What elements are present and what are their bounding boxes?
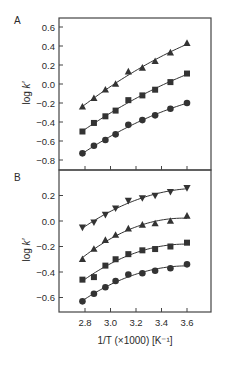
- y-tick-label: 0.0: [42, 216, 55, 227]
- x-tick-label: 3.2: [129, 317, 142, 328]
- series-circle: [79, 261, 190, 305]
- panel-b: B0.20.0−0.2−0.4−0.6log k′2.83.03.23.43.6: [14, 170, 211, 328]
- series-inverted-triangle: [79, 185, 191, 231]
- series-circle: [79, 100, 190, 157]
- y-tick-label: −0.2: [36, 241, 55, 252]
- y-tick-label: 0.2: [42, 60, 55, 71]
- y-tick-label: 0.2: [42, 190, 55, 201]
- plot-frame: [59, 18, 211, 170]
- y-tick-label: −0.4: [36, 267, 55, 278]
- series-square: [79, 240, 190, 283]
- y-tick-label: −0.6: [36, 136, 55, 147]
- panel-a: A0.60.40.20.0−0.2−0.4−0.6−0.8log k′: [14, 15, 211, 170]
- y-tick-label: −0.8: [36, 155, 55, 166]
- series-square: [79, 71, 190, 135]
- x-tick-label: 2.8: [78, 317, 91, 328]
- figure: A0.60.40.20.0−0.2−0.4−0.6−0.8log k′ B0.2…: [0, 0, 226, 371]
- x-axis-label: 1/T (×1000) [K⁻¹]: [97, 335, 172, 346]
- y-tick-label: 0.0: [42, 79, 55, 90]
- panel-label: A: [14, 15, 21, 26]
- y-tick-label: −0.4: [36, 117, 55, 128]
- y-tick-label: −0.6: [36, 292, 55, 303]
- y-axis-label: log k′: [21, 80, 32, 104]
- x-tick-label: 3.6: [180, 317, 193, 328]
- y-tick-label: 0.4: [42, 41, 55, 52]
- y-tick-label: 0.6: [42, 22, 55, 33]
- y-axis-label: log k′: [21, 237, 32, 261]
- x-tick-label: 3.0: [104, 317, 117, 328]
- panel-label: B: [14, 172, 21, 183]
- y-tick-label: −0.2: [36, 98, 55, 109]
- x-tick-label: 3.4: [155, 317, 168, 328]
